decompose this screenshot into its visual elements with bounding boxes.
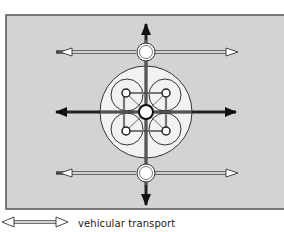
diagram-canvas — [0, 0, 284, 232]
central-hub — [139, 105, 153, 119]
district-ne-node — [162, 89, 170, 97]
legend-label-vehicular: vehicular transport — [78, 218, 175, 229]
district-se-node — [162, 127, 170, 135]
bottom-node — [137, 164, 155, 182]
district-nw-node — [122, 89, 130, 97]
top-node — [137, 43, 155, 61]
district-sw-node — [122, 127, 130, 135]
legend-vehicular-symbol — [2, 217, 68, 227]
